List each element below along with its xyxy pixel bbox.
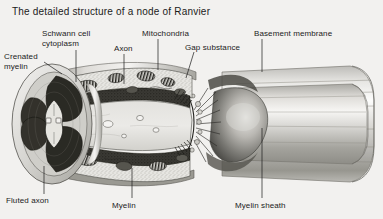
label-crenated-myelin: Crenated myelin xyxy=(4,52,38,71)
label-fluted-axon: Fluted axon xyxy=(6,196,49,206)
mitochondrion xyxy=(176,154,188,161)
label-myelin: Myelin xyxy=(112,201,136,211)
myelin-sheath-segment xyxy=(206,66,376,182)
label-axon: Axon xyxy=(114,44,133,54)
label-myelin-sheath: Myelin sheath xyxy=(235,201,286,211)
label-mitochondria: Mitochondria xyxy=(142,29,189,39)
label-basement-membrane: Basement membrane xyxy=(254,29,332,39)
figure-title: The detailed structure of a node of Ranv… xyxy=(12,6,210,17)
label-gap-substance: Gap substance xyxy=(185,43,240,53)
label-schwann-cell-cytoplasm: Schwann cell cytoplasm xyxy=(42,29,90,48)
